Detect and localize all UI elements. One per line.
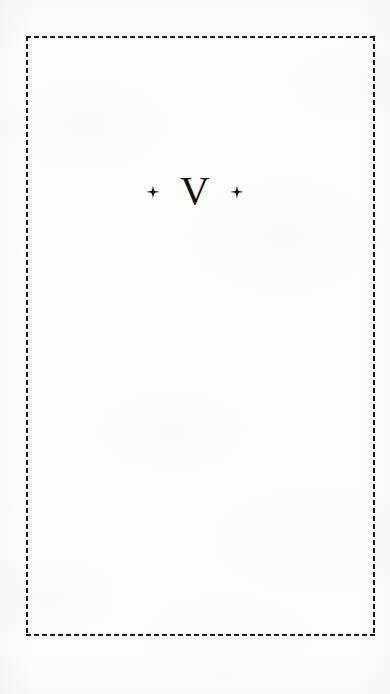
- page-body-blank-area: [26, 225, 375, 636]
- four-pointed-star-icon-right: [230, 185, 244, 199]
- part-heading: V: [0, 168, 390, 212]
- frame-rule-top: [26, 36, 375, 38]
- scanned-page: V: [0, 0, 390, 694]
- part-numeral: V: [180, 170, 210, 211]
- four-pointed-star-icon-left: [146, 185, 160, 199]
